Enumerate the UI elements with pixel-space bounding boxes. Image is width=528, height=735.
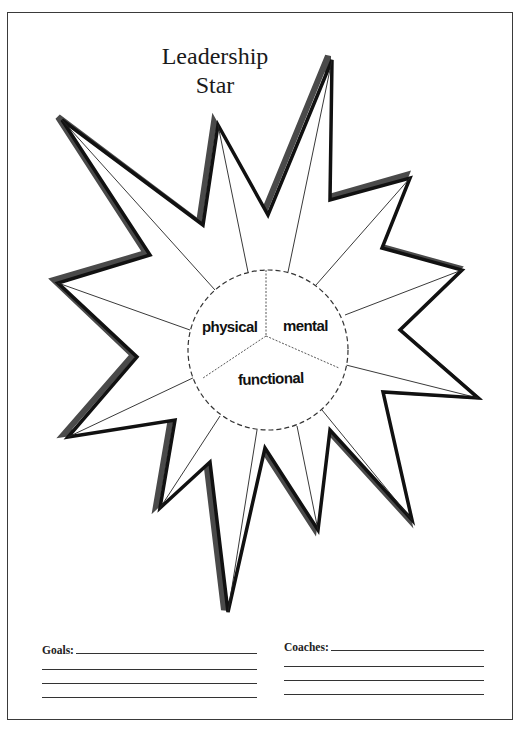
goals-label: Goals:	[42, 644, 74, 656]
goals-section: Goals:	[42, 640, 257, 698]
leadership-star-diagram: physical mental functional	[0, 0, 528, 735]
goals-input-line-1[interactable]	[76, 653, 257, 654]
coaches-input-line-4[interactable]	[284, 694, 484, 695]
section-label-functional: functional	[238, 369, 305, 388]
section-label-physical: physical	[202, 318, 258, 335]
goals-input-line-2[interactable]	[42, 669, 257, 670]
coaches-input-line-3[interactable]	[284, 680, 484, 681]
goals-input-line-3[interactable]	[42, 683, 257, 684]
center-circle	[188, 270, 348, 430]
coaches-input-line-1[interactable]	[331, 650, 484, 651]
goals-input-line-4[interactable]	[42, 697, 257, 698]
coaches-label: Coaches:	[284, 641, 329, 653]
section-label-mental: mental	[283, 317, 328, 334]
coaches-input-line-2[interactable]	[284, 666, 484, 667]
coaches-section: Coaches:	[284, 637, 484, 695]
